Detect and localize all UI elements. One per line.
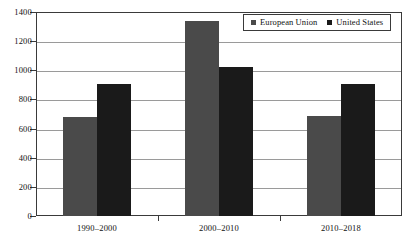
gridline xyxy=(37,130,401,131)
legend-swatch-icon xyxy=(327,20,332,25)
legend-item: United States xyxy=(327,18,383,27)
plot-area xyxy=(36,12,402,216)
legend-swatch-icon xyxy=(251,20,256,25)
gridline xyxy=(37,159,401,160)
y-axis-tick-label: 1400 xyxy=(14,8,32,17)
x-axis-tick xyxy=(158,216,159,221)
chart-legend: European UnionUnited States xyxy=(243,14,391,31)
y-axis-tick-label: 400 xyxy=(19,154,32,163)
y-axis-tick-label: 1000 xyxy=(14,66,32,75)
gridline xyxy=(37,71,401,72)
gridline xyxy=(37,100,401,101)
legend-label: European Union xyxy=(260,18,317,27)
x-axis-category-label: 2000–2010 xyxy=(158,224,280,233)
y-axis-tick-label: 600 xyxy=(19,125,32,134)
gridline xyxy=(37,188,401,189)
y-axis-tick-label: 1200 xyxy=(14,37,32,46)
y-axis-tick-label: 800 xyxy=(19,95,32,104)
legend-label: United States xyxy=(336,18,383,27)
legend-item: European Union xyxy=(251,18,317,27)
y-axis-tick-label: 0 xyxy=(28,212,32,221)
y-axis-tick-label: 200 xyxy=(19,183,32,192)
gridline xyxy=(37,42,401,43)
x-axis-category-label: 2010–2018 xyxy=(280,224,402,233)
x-axis-category-label: 1990–2000 xyxy=(36,224,158,233)
bar-chart: 0200400600800100012001400 1990–20002000–… xyxy=(0,0,414,240)
x-axis-tick xyxy=(280,216,281,221)
